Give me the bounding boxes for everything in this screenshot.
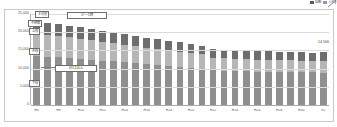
stacked-bar[interactable] <box>309 53 316 105</box>
bar-column[interactable] <box>75 14 86 105</box>
bar-column[interactable] <box>86 14 97 105</box>
x-tick-spacer: · <box>285 109 296 113</box>
stacked-bar[interactable] <box>254 51 261 105</box>
x-tick-labels: H6·H8·H10·H12·H14·H16·H18·H20·H22·H24·H2… <box>31 109 329 113</box>
bar-column[interactable] <box>119 14 130 105</box>
x-tick-label: H12 <box>97 109 108 113</box>
bar-segment <box>132 46 139 63</box>
bar-column[interactable] <box>64 14 75 105</box>
bar-column[interactable] <box>53 14 64 105</box>
x-tick-label: R2 <box>318 109 329 113</box>
bar-segment <box>165 66 172 105</box>
bar-column[interactable] <box>208 14 219 105</box>
callout-second: 不明等 <box>28 20 42 27</box>
x-tick-spacer: · <box>174 109 185 113</box>
bar-segment <box>143 38 150 48</box>
bar-column[interactable] <box>285 14 296 105</box>
x-tick-spacer: · <box>130 109 141 113</box>
x-tick-label: H20 <box>185 109 196 113</box>
bar-column[interactable] <box>141 14 152 105</box>
bar-segment <box>188 44 195 53</box>
bar-segment <box>77 27 84 38</box>
y-axis: 25,00020,00015,00010,0005,0000 <box>5 14 31 105</box>
bar-segment <box>66 37 73 58</box>
x-tick-label: H24 <box>230 109 241 113</box>
x-tick-label: H14 <box>119 109 130 113</box>
bar-segment <box>276 72 283 105</box>
stacked-bar[interactable] <box>320 52 327 105</box>
x-tick-label: H22 <box>208 109 219 113</box>
x-tick-spacer: · <box>152 109 163 113</box>
bar-column[interactable] <box>42 14 53 105</box>
bar-segment <box>232 59 239 71</box>
gridline <box>31 105 329 106</box>
x-tick-spacer: · <box>219 109 230 113</box>
bar-column[interactable] <box>252 14 263 105</box>
stacked-bar[interactable] <box>210 49 217 105</box>
bar-segment <box>309 53 316 61</box>
arrow-up-right-icon <box>327 0 337 8</box>
bar-column[interactable] <box>108 14 119 105</box>
bar-column[interactable] <box>230 14 241 105</box>
stacked-bar[interactable] <box>287 52 294 105</box>
stacked-bar[interactable] <box>121 34 128 105</box>
x-tick-spacer: · <box>263 109 274 113</box>
x-tick-label: H26 <box>252 109 263 113</box>
x-tick-label: H6 <box>31 109 42 113</box>
chart-legend: 総数 うち <box>310 1 334 4</box>
chart-frame: 25,00020,00015,00010,0005,0000 H6·H8·H10… <box>4 9 334 122</box>
bar-segment <box>132 63 139 105</box>
stacked-bar[interactable] <box>265 51 272 105</box>
bar-segment <box>99 61 106 105</box>
y-tick-label: 25,000 <box>18 12 29 16</box>
bar-column[interactable] <box>241 14 252 105</box>
bar-column[interactable] <box>318 14 329 105</box>
stacked-bar[interactable] <box>276 52 283 105</box>
x-tick-label: H30 <box>296 109 307 113</box>
x-tick-label: H16 <box>141 109 152 113</box>
bar-column[interactable] <box>274 14 285 105</box>
bar-column[interactable] <box>130 14 141 105</box>
bar-segment <box>210 70 217 105</box>
stacked-bar[interactable] <box>298 52 305 105</box>
stacked-bar[interactable] <box>143 38 150 105</box>
y-tick-label: 20,000 <box>18 30 29 34</box>
bar-segment <box>165 50 172 66</box>
bar-segment <box>44 23 51 35</box>
bar-column[interactable] <box>152 14 163 105</box>
x-tick-label: H28 <box>274 109 285 113</box>
bar-column[interactable] <box>296 14 307 105</box>
stacked-bar[interactable] <box>243 51 250 105</box>
stacked-bar[interactable] <box>232 50 239 105</box>
stacked-bar[interactable] <box>154 39 161 105</box>
bar-column[interactable] <box>263 14 274 105</box>
stacked-bar[interactable] <box>221 50 228 105</box>
callout-top: その他 <box>35 11 49 18</box>
bar-segment <box>232 50 239 59</box>
bar-segment <box>243 71 250 105</box>
stacked-bar[interactable] <box>132 36 139 105</box>
bar-segment <box>276 52 283 60</box>
bar-segment <box>110 43 117 62</box>
bar-segment <box>88 29 95 40</box>
bar-column[interactable] <box>307 14 318 105</box>
gridline <box>31 32 329 33</box>
bar-column[interactable] <box>174 14 185 105</box>
x-axis: H6·H8·H10·H12·H14·H16·H18·H20·H22·H24·H2… <box>31 107 329 119</box>
stacked-bar[interactable] <box>188 44 195 105</box>
legend-swatch-0 <box>310 1 314 4</box>
bar-column[interactable] <box>97 14 108 105</box>
stacked-bar[interactable] <box>44 23 51 105</box>
bar-segment <box>177 52 184 67</box>
callout-right: ピーク時 <box>67 12 107 19</box>
bar-column[interactable] <box>163 14 174 105</box>
bar-segment <box>121 45 128 63</box>
stacked-bar[interactable] <box>199 46 206 106</box>
bar-column[interactable] <box>196 14 207 105</box>
bar-column[interactable] <box>219 14 230 105</box>
stacked-bar[interactable] <box>177 42 184 105</box>
x-tick-spacer: · <box>307 109 318 113</box>
bar-column[interactable] <box>185 14 196 105</box>
bar-segment <box>154 49 161 65</box>
bar-segment <box>298 52 305 60</box>
